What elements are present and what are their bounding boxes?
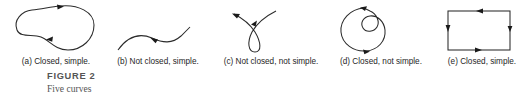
curves-row bbox=[0, 0, 529, 56]
arrowhead-icon bbox=[508, 26, 513, 32]
curve-a-closed-simple bbox=[8, 0, 104, 56]
arrowhead-icon bbox=[475, 48, 482, 53]
arrowhead-icon bbox=[232, 13, 240, 18]
arrowhead-icon bbox=[57, 4, 64, 9]
curve-a-path bbox=[16, 6, 94, 50]
curve-d-path bbox=[341, 8, 385, 51]
curve-e-closed-rectangle bbox=[437, 0, 521, 56]
curve-labels-row: (a) Closed, simple. (b) Not closed, simp… bbox=[0, 56, 529, 70]
curve-e-path bbox=[448, 11, 510, 50]
arrowhead-icon bbox=[476, 9, 483, 14]
figure-caption-subtitle: Five curves bbox=[47, 83, 247, 94]
curve-label-c: (c) Not closed, not simple. bbox=[212, 56, 330, 68]
curve-c-path bbox=[234, 11, 276, 52]
curve-b-open-simple bbox=[112, 0, 196, 56]
curve-b-drawing bbox=[112, 0, 196, 56]
figure-caption: FIGURE 2 Five curves bbox=[47, 71, 247, 94]
curve-c-drawing bbox=[208, 0, 312, 56]
figure-caption-title: FIGURE 2 bbox=[47, 71, 247, 82]
figure-2-container: (a) Closed, simple. (b) Not closed, simp… bbox=[0, 0, 529, 96]
curve-label-e: (e) Closed, simple. bbox=[438, 56, 526, 68]
curve-d-closed-not-simple bbox=[330, 0, 410, 56]
curve-label-a: (a) Closed, simple. bbox=[8, 56, 104, 68]
curve-e-drawing bbox=[437, 0, 521, 56]
curve-c-open-not-simple bbox=[208, 0, 312, 56]
curve-label-d: (d) Closed, not simple. bbox=[326, 56, 436, 68]
curve-d-drawing bbox=[330, 0, 410, 56]
arrowhead-icon bbox=[446, 25, 451, 32]
curve-label-b: (b) Not closed, simple. bbox=[106, 56, 210, 68]
curve-a-drawing bbox=[8, 0, 104, 56]
